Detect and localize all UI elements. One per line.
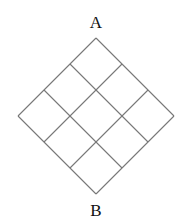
grid-line-dr-0: [96, 38, 174, 116]
grid-line-dl-0: [18, 38, 96, 116]
grid-line-dr-1: [70, 64, 148, 142]
label-b: B: [90, 201, 101, 219]
grid-lines: [18, 38, 174, 194]
grid-line-dl-1: [44, 64, 122, 142]
grid-line-dr-3: [18, 116, 96, 194]
label-a: A: [90, 13, 103, 32]
grid-line-dr-2: [44, 90, 122, 168]
grid-diagram: A B: [0, 0, 186, 219]
grid-line-dl-3: [96, 116, 174, 194]
grid-line-dl-2: [70, 90, 148, 168]
